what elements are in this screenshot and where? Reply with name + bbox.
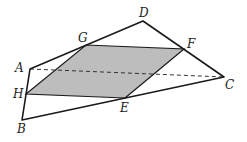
label-d: D (138, 6, 149, 20)
label-f: F (186, 37, 196, 51)
label-h: H (12, 87, 24, 101)
label-a: A (14, 61, 24, 75)
label-e: E (119, 101, 129, 115)
label-c: C (225, 78, 234, 92)
label-g: G (78, 31, 88, 45)
diagram-canvas: A B C D E F G H (0, 0, 247, 142)
label-b: B (16, 122, 26, 136)
geometry-diagram: A B C D E F G H (0, 0, 247, 142)
